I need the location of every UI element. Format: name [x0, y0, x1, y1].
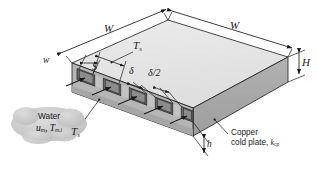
label-w-channel-width: w [43, 56, 49, 66]
inlet-temp-subscript: m,i [55, 128, 62, 134]
copper-line1: Copper [231, 128, 279, 138]
copper-line2: cold plate, kcp [231, 138, 279, 148]
leader-copper-cold-plate [214, 119, 228, 135]
water-properties: um, Tm,i [14, 123, 84, 134]
Ts-top-subscript: s [139, 45, 142, 52]
water-callout-text: Water um, Tm,i [14, 112, 84, 134]
label-W-left: W [104, 23, 113, 34]
microchannel-cold-plate-figure: W W w S δ δ/2 H h Ts Ts Water um, Tm,i C… [0, 0, 317, 174]
label-Ts-top: Ts [133, 40, 142, 52]
water-label: Water [14, 112, 84, 121]
label-delta: δ [129, 66, 134, 76]
conductivity-subscript: cp [274, 141, 279, 147]
cold-plate-text: cold plate, [231, 138, 271, 147]
copper-cold-plate-annotation: Copper cold plate, kcp [231, 128, 279, 148]
label-W-right: W [230, 20, 239, 31]
label-H-plate-height: H [302, 57, 310, 68]
label-delta-half: δ/2 [148, 68, 160, 78]
label-h-channel-height: h [207, 140, 212, 150]
label-S-pitch: S [92, 62, 97, 72]
